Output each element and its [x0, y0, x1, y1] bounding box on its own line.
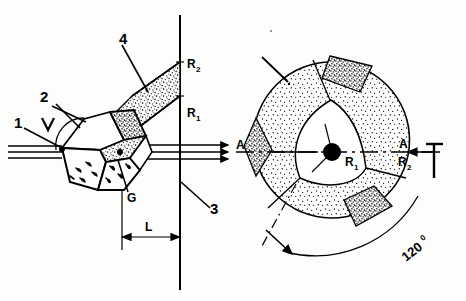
svg-text:2: 2	[407, 163, 412, 172]
section-direction-arrow	[408, 143, 443, 178]
label-section-right: A	[399, 137, 408, 151]
left-view-group: 1 2 4 3 G L R 2 R 1	[8, 15, 228, 290]
label-gap: G	[127, 191, 136, 205]
angle-arc-arrowhead	[266, 230, 292, 254]
label-length: L	[145, 220, 152, 234]
label-item3: 3	[210, 200, 218, 217]
chevron-down-icon	[42, 118, 54, 130]
figure-canvas: 1 2 4 3 G L R 2 R 1	[0, 0, 466, 301]
label-item4: 4	[119, 30, 128, 47]
right-view-group: A A R 1 R 2 120 0	[236, 30, 443, 264]
ring-leader-line	[262, 57, 288, 82]
diagram-svg: 1 2 4 3 G L R 2 R 1	[0, 0, 466, 301]
svg-text:2: 2	[196, 65, 201, 74]
leader-item4	[122, 45, 148, 92]
svg-text:R: R	[187, 57, 196, 71]
label-section-left: A	[236, 138, 245, 152]
leader-item3	[181, 182, 210, 208]
svg-text:R: R	[187, 106, 196, 120]
svg-text:1: 1	[196, 114, 201, 123]
svg-text:0: 0	[418, 233, 427, 243]
svg-text:R: R	[345, 155, 354, 169]
leader-item1	[24, 128, 60, 147]
label-left-R1: R 1	[187, 106, 201, 123]
label-angle-120: 120 0	[398, 233, 432, 265]
svg-text:R: R	[398, 155, 407, 169]
label-left-R2: R 2	[187, 57, 201, 74]
label-item2: 2	[40, 88, 48, 105]
incoming-ray-bundle	[8, 146, 62, 158]
svg-text:1: 1	[354, 163, 359, 172]
svg-text:120: 120	[399, 239, 425, 264]
leader-item2-a	[52, 106, 86, 122]
label-item1: 1	[14, 114, 22, 131]
leader-item2-b	[56, 104, 80, 128]
